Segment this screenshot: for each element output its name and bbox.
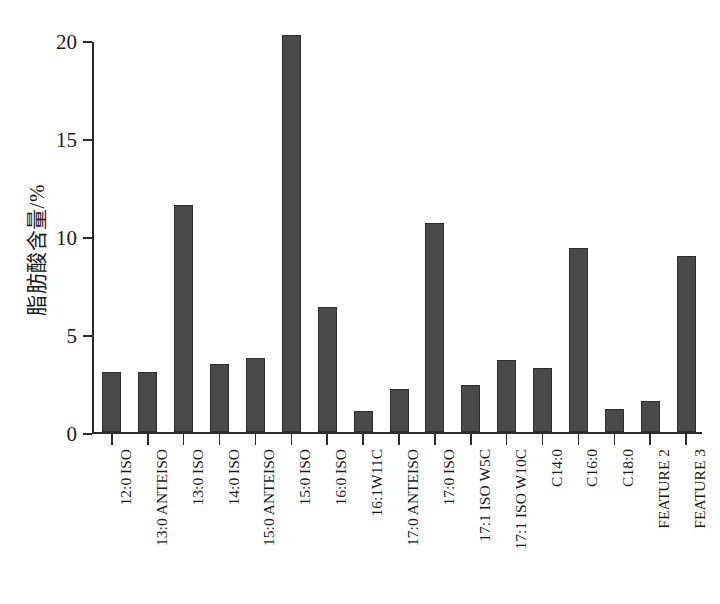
- bar-chart-figure: 脂肪酸含量/% 0510152012:0 ISO13:0 ANTEISO13:0…: [0, 0, 720, 604]
- x-axis-tick: [219, 434, 221, 445]
- x-axis-tick-label-text: 17:0 ISO: [441, 449, 457, 505]
- x-axis-tick: [614, 434, 616, 445]
- x-axis-tick-label-text: FEATURE 3: [692, 449, 708, 529]
- x-axis-tick-label: 15:0 ISO: [297, 449, 313, 505]
- x-axis-tick-label-text: 15:0 ISO: [297, 449, 313, 505]
- x-axis-tick-label-text: C14:0: [549, 449, 565, 487]
- x-axis-tick-label: 13:0 ISO: [190, 449, 206, 505]
- x-axis-tick-label-text: 16:0 ISO: [333, 449, 349, 505]
- y-axis-tick-label: 0: [67, 424, 78, 445]
- y-axis-tick: 10: [83, 237, 92, 239]
- x-axis-tick: [147, 434, 149, 445]
- x-axis-tick: [255, 434, 257, 445]
- bar: [282, 35, 301, 433]
- plot-area: 0510152012:0 ISO13:0 ANTEISO13:0 ISO14:0…: [92, 42, 702, 434]
- y-axis-tick-label: 5: [67, 326, 78, 347]
- x-axis-tick: [398, 434, 400, 445]
- bar: [174, 205, 193, 432]
- bar: [210, 364, 229, 433]
- x-axis-tick-label-text: C16:0: [584, 449, 600, 487]
- x-axis-tick-label: 17:0 ANTEISO: [405, 449, 421, 546]
- x-axis-tick: [685, 434, 687, 445]
- x-axis-tick: [291, 434, 293, 445]
- bar: [497, 360, 516, 433]
- x-axis-tick: [434, 434, 436, 445]
- x-axis-tick: [470, 434, 472, 445]
- bar: [641, 401, 660, 432]
- x-axis-tick-label-text: C18:0: [620, 449, 636, 487]
- y-axis-tick-label: 20: [56, 32, 77, 53]
- x-axis-tick-label: C16:0: [584, 449, 600, 487]
- bar: [461, 385, 480, 432]
- x-axis-tick-label-text: FEATURE 2: [656, 449, 672, 529]
- x-axis-tick: [578, 434, 580, 445]
- x-axis-tick-label: C18:0: [620, 449, 636, 487]
- x-axis-tick-label: 14:0 ISO: [226, 449, 242, 505]
- bar: [605, 409, 624, 433]
- x-axis-tick-label-text: 15:0 ANTEISO: [261, 449, 277, 546]
- y-axis-line: [92, 42, 94, 434]
- x-axis-tick-label: 15:0 ANTEISO: [261, 449, 277, 546]
- y-axis-tick: 5: [83, 335, 92, 337]
- x-axis-tick-label-text: 13:0 ISO: [190, 449, 206, 505]
- x-axis-tick: [506, 434, 508, 445]
- y-axis-tick-label: 15: [56, 130, 77, 151]
- x-axis-tick-label-text: 16:1W11C: [369, 449, 385, 516]
- y-axis-title: 脂肪酸含量/%: [22, 150, 48, 350]
- bar: [354, 411, 373, 433]
- x-axis-tick: [649, 434, 651, 445]
- bar: [246, 358, 265, 432]
- bar: [425, 223, 444, 433]
- x-axis-tick-label: 16:1W11C: [369, 449, 385, 516]
- x-axis-tick: [326, 434, 328, 445]
- x-axis-tick-label-text: 14:0 ISO: [226, 449, 242, 505]
- y-axis-tick: 0: [83, 433, 92, 435]
- x-axis-tick-label-text: 12:0 ISO: [118, 449, 134, 505]
- x-axis-tick-label: 17:0 ISO: [441, 449, 457, 505]
- x-axis-tick-label-text: 13:0 ANTEISO: [154, 449, 170, 546]
- x-axis-tick-label: FEATURE 2: [656, 449, 672, 529]
- bar: [138, 372, 157, 433]
- x-axis-tick-label-text: 17:0 ANTEISO: [405, 449, 421, 546]
- y-axis-tick: 15: [83, 139, 92, 141]
- x-axis-tick-label: 16:0 ISO: [333, 449, 349, 505]
- x-axis-tick-label: 12:0 ISO: [118, 449, 134, 505]
- y-axis-tick-label: 10: [56, 228, 77, 249]
- x-axis-tick-label: C14:0: [549, 449, 565, 487]
- bar: [318, 307, 337, 432]
- y-axis-tick: 20: [83, 41, 92, 43]
- bar: [390, 389, 409, 432]
- bar: [677, 256, 696, 432]
- bar: [102, 372, 121, 433]
- x-axis-tick: [111, 434, 113, 445]
- x-axis-tick: [362, 434, 364, 445]
- x-axis-tick-label: 17:1 ISO W5C: [477, 449, 493, 542]
- x-axis-tick: [183, 434, 185, 445]
- x-axis-tick-label-text: 17:1 ISO W5C: [477, 449, 493, 542]
- y-axis-title-text: 脂肪酸含量/%: [20, 184, 50, 316]
- x-axis-tick-label: FEATURE 3: [692, 449, 708, 529]
- x-axis-tick-label: 17:1 ISO W10C: [513, 449, 529, 549]
- x-axis-tick-label-text: 17:1 ISO W10C: [513, 449, 529, 549]
- bar: [533, 368, 552, 433]
- x-axis-tick: [542, 434, 544, 445]
- x-axis-tick-label: 13:0 ANTEISO: [154, 449, 170, 546]
- bar: [569, 248, 588, 432]
